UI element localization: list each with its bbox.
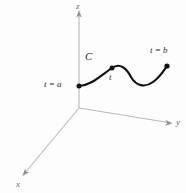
curve-mid-point-dot	[110, 66, 115, 71]
curve-mid-point-label: t	[109, 73, 112, 82]
curve-start-point-dot	[77, 84, 82, 89]
x-axis-label: x	[16, 180, 20, 189]
z-axis	[76, 10, 81, 108]
figure-canvas	[0, 0, 186, 193]
space-curve-figure: z y x C t = a t t = b	[0, 0, 186, 193]
x-axis	[22, 108, 79, 176]
z-axis-label: z	[76, 2, 80, 11]
space-curve-path	[79, 66, 167, 86]
y-axis-line	[79, 108, 167, 122]
y-axis-arrowhead	[165, 120, 173, 126]
curve-end-point-dot	[164, 63, 169, 68]
curve-name-label: C	[85, 51, 92, 62]
y-axis	[79, 108, 173, 126]
curve-start-point-label: t = a	[44, 80, 62, 89]
curve-end-point-label: t = b	[150, 46, 168, 55]
y-axis-label: y	[176, 118, 180, 127]
x-axis-line	[27, 108, 80, 171]
